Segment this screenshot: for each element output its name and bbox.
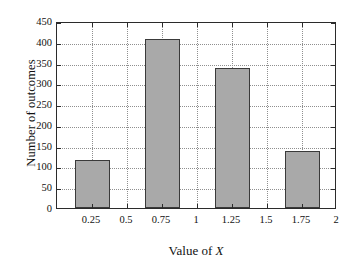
x-tick-mark (162, 204, 163, 208)
x-tick-mark (267, 204, 268, 208)
y-tick-mark (57, 189, 61, 190)
y-tick-mark (57, 65, 61, 66)
y-tick-mark (331, 44, 335, 45)
x-tick-mark (302, 204, 303, 208)
x-axis-label-variable: X (215, 243, 223, 258)
bar (145, 39, 180, 208)
gridline-vertical (267, 23, 268, 208)
y-tick-mark (57, 127, 61, 128)
x-tick-mark (197, 23, 198, 27)
gridline-horizontal (57, 44, 335, 45)
y-tick-mark (331, 23, 335, 24)
gridline-vertical (127, 23, 128, 208)
y-tick-mark (57, 148, 61, 149)
x-tick-mark (302, 23, 303, 27)
x-tick-mark (127, 204, 128, 208)
bar (215, 68, 250, 208)
x-tick-label: 1 (193, 214, 198, 225)
histogram-figure: Number of outcomes 050100150200250300350… (0, 0, 353, 272)
x-tick-mark (127, 23, 128, 27)
bar (285, 151, 320, 208)
x-tick-mark (197, 204, 198, 208)
gridline-horizontal (57, 85, 335, 86)
y-tick-mark (331, 106, 335, 107)
y-tick-mark (57, 85, 61, 86)
x-tick-mark (92, 204, 93, 208)
x-tick-label: 1.75 (292, 214, 310, 225)
x-axis-label: Value of X (56, 243, 336, 259)
gridline-horizontal (57, 148, 335, 149)
x-tick-mark (232, 204, 233, 208)
x-tick-label: 1.5 (259, 214, 272, 225)
x-axis-label-text: Value of (169, 243, 216, 258)
gridline-horizontal (57, 65, 335, 66)
x-tick-mark (92, 23, 93, 27)
y-tick-mark (57, 106, 61, 107)
x-tick-label: 1.25 (222, 214, 240, 225)
gridline-vertical (197, 23, 198, 208)
x-tick-label: 0.25 (82, 214, 100, 225)
y-tick-mark (331, 148, 335, 149)
y-tick-mark (331, 168, 335, 169)
x-tick-label: 2 (333, 214, 338, 225)
bar (75, 160, 110, 208)
gridline-horizontal (57, 106, 335, 107)
y-tick-mark (57, 44, 61, 45)
y-tick-mark (57, 168, 61, 169)
plot-area (56, 22, 336, 209)
y-tick-mark (331, 189, 335, 190)
x-tick-label: 0.75 (152, 214, 170, 225)
x-tick-label: 0.5 (119, 214, 132, 225)
y-tick-mark (57, 23, 61, 24)
x-tick-mark (267, 23, 268, 27)
y-tick-mark (331, 85, 335, 86)
x-tick-mark (232, 23, 233, 27)
gridline-horizontal (57, 127, 335, 128)
y-tick-mark (331, 127, 335, 128)
x-tick-mark (162, 23, 163, 27)
y-tick-mark (331, 65, 335, 66)
